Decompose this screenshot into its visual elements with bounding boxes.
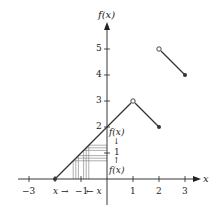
y-axis-label: f(x) [98,10,115,20]
graph-segments [55,51,185,179]
closed-point-neg2-0 [53,177,57,181]
approach-right-label: ← x [86,187,101,196]
approach-lines [73,145,107,179]
x-tick-label-1: 1 [130,187,136,196]
y-tick-label-2: 2 [96,122,102,131]
function-graph [0,0,217,216]
arrow-down-icon: ↓ [113,138,120,146]
x-axis-label: x [203,174,209,184]
x-tick-label-3: 3 [182,187,188,196]
x-tick-label-neg3: −3 [22,187,35,196]
segment-3 [161,51,185,75]
y-tick-label-3: 3 [96,96,102,105]
fx-bottom-label: f(x) [109,166,124,175]
open-point-1-3 [131,99,135,103]
open-point-2-5 [157,47,161,51]
approach-left-label: x → [53,187,68,196]
y-axis-arrow-icon [104,22,110,30]
axes [18,27,196,205]
y-tick-label-5: 5 [96,44,102,53]
closed-point-3-4 [183,73,187,77]
arrow-up-icon: ↑ [113,157,120,165]
closed-point-2-2 [157,125,161,129]
y-tick-label-4: 4 [96,70,102,79]
x-tick-label-2: 2 [156,187,162,196]
segment-2 [135,103,159,127]
fx-top-label: f(x) [109,128,124,137]
x-axis-arrow-icon [193,176,201,182]
